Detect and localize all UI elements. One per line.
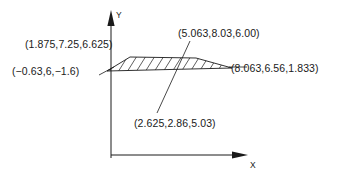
coordinate-label-left: (−0.63,6,−1.6) xyxy=(12,65,79,77)
coordinate-label-bottom: (2.625,2.86,5.03) xyxy=(134,117,216,129)
y-axis-arrowhead xyxy=(107,10,114,26)
diagonal-leader-line xyxy=(157,41,190,113)
coordinate-label-right: (8.063,6.56,1.833) xyxy=(231,62,319,74)
y-axis xyxy=(107,10,114,158)
coordinate-label-top-left: (1.875,7.25,6.625) xyxy=(25,38,113,50)
x-axis-label: X xyxy=(250,160,256,170)
polygon-hatching xyxy=(104,48,241,80)
y-axis-label: Y xyxy=(116,10,122,20)
x-axis-arrowhead xyxy=(232,152,248,159)
hatched-polygon xyxy=(104,48,241,80)
diagram-canvas xyxy=(0,0,350,179)
x-axis xyxy=(111,152,248,159)
coordinate-diagram: (1.875,7.25,6.625) (−0.63,6,−1.6) (5.063… xyxy=(0,0,350,179)
coordinate-label-top-right: (5.063,8.03,6.00) xyxy=(178,27,260,39)
